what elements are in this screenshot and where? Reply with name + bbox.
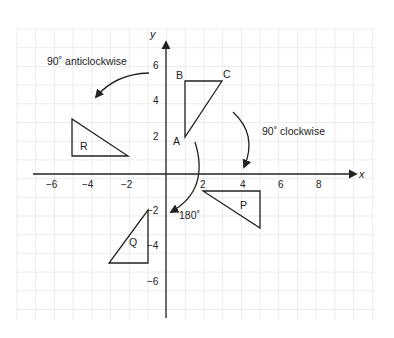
vertex-label-b: B [176, 69, 183, 81]
triangle-label-r: R [80, 140, 88, 152]
vertex-label-a: A [173, 135, 180, 147]
vertex-label-c: C [223, 68, 231, 80]
y-tick-label: 6 [153, 60, 159, 71]
x-tick-label: −4 [82, 179, 94, 190]
triangle-label-p: P [240, 199, 247, 211]
x-axis-label: x [358, 168, 365, 180]
y-tick-label: 4 [153, 95, 159, 106]
x-tick-label: 4 [240, 179, 246, 190]
y-tick-label: 2 [153, 131, 159, 142]
rotation-diagram: x y −6 −4 −2 2 4 6 8 6 4 2 −2 −4 −6 A B … [0, 0, 394, 338]
y-tick-label: −2 [147, 205, 159, 216]
triangle-p [203, 191, 260, 228]
annotation-clockwise: 90˚ clockwise [262, 125, 325, 137]
x-tick-label: 6 [278, 179, 284, 190]
triangle-label-q: Q [129, 236, 137, 248]
y-axis-label: y [149, 28, 157, 40]
y-tick-label: −4 [147, 240, 159, 251]
annotation-anticlockwise: 90˚ anticlockwise [47, 55, 127, 67]
x-tick-label: −2 [121, 179, 133, 190]
annotation-half-turn: 180˚ [179, 209, 200, 221]
y-tick-label: −6 [147, 276, 159, 287]
triangle-abc [185, 81, 222, 137]
x-tick-label: 8 [316, 179, 322, 190]
x-tick-label: −6 [46, 179, 58, 190]
x-tick-label: 2 [200, 179, 206, 190]
